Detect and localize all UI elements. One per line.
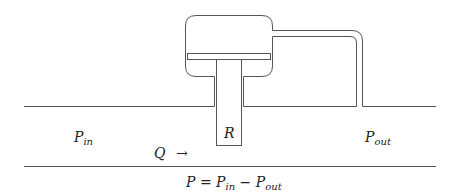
valve-plate	[188, 54, 271, 60]
label-resistance: R	[224, 126, 235, 140]
valve-diagram	[0, 0, 453, 193]
pipe-top-wall-left	[24, 77, 215, 107]
flow-arrow-icon: →	[176, 145, 188, 161]
pipe-top-wall-middle	[244, 37, 357, 107]
label-p-out: Pout	[365, 130, 391, 147]
valve-chamber	[186, 16, 273, 107]
pressure-equation: P = Pin − Pout	[186, 175, 282, 192]
label-flow: Q →	[154, 146, 188, 160]
sensing-tube	[273, 31, 437, 107]
label-p-in: Pin	[74, 130, 93, 147]
